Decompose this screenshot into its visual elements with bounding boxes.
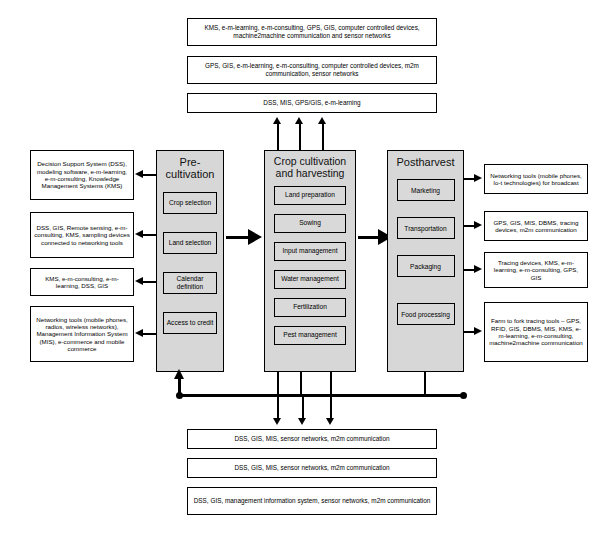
task-access-to-credit: Access to credit <box>163 312 217 334</box>
bottom-banner-1: DSS, GIS, MIS, sensor networks, m2m comm… <box>187 429 437 449</box>
phase-title-crop-cultivation: Crop cultivation and harvesting <box>265 156 355 180</box>
connector-left-4 <box>143 333 157 335</box>
bus-junction-right <box>460 392 467 399</box>
connector-bus-down-2 <box>302 394 304 420</box>
connector-phase2-to-bus <box>300 372 302 394</box>
task-fertilization: Fertilization <box>274 298 346 317</box>
connector-up-1 <box>277 124 279 150</box>
task-land-preparation: Land preparation <box>274 186 346 205</box>
connector-left-3 <box>143 281 157 283</box>
phase-postharvest: Postharvest Marketing Transportation Pac… <box>387 150 464 372</box>
arrow-right-icon-2 <box>474 221 482 229</box>
phase-title-pre-cultivation: Pre-cultivation <box>157 156 223 181</box>
arrow-left-icon-4 <box>135 329 143 337</box>
left-box-4: Networking tools (mobile phones, radios,… <box>30 306 134 362</box>
arrow-left-icon-1 <box>135 170 143 178</box>
bottom-banner-3: DSS, GIS, management information system,… <box>187 487 437 515</box>
task-sowing: Sowing <box>274 214 346 233</box>
connector-left-1 <box>143 174 157 176</box>
feedback-bus <box>178 394 464 397</box>
arrow-down-icon-3 <box>326 418 334 425</box>
top-banner-3: DSS, MIS, GPS/GIS, e-m-learning <box>187 93 437 113</box>
task-pest-management: Pest management <box>274 326 346 345</box>
arrow-right-icon-1 <box>474 174 482 182</box>
connector-left-2 <box>143 234 157 236</box>
task-packaging: Packaging <box>397 255 455 277</box>
arrow-left-icon-3 <box>135 277 143 285</box>
task-land-selection: Land selection <box>163 232 217 254</box>
arrow-down-icon-2 <box>298 418 306 425</box>
top-banner-2: GPS, GIS, e-m-learning, e-m-consulting, … <box>187 56 437 84</box>
connector-phase1-to-phase2 <box>226 236 250 239</box>
arrow-right-icon-3 <box>474 265 482 273</box>
right-box-2: GPS, GIS, MIS, DBMS, tracing devices, m2… <box>484 211 588 241</box>
phase-crop-cultivation: Crop cultivation and harvesting Land pre… <box>264 150 356 372</box>
connector-phase2-to-phase3 <box>358 236 380 239</box>
arrow-up-icon-feedback <box>174 369 184 379</box>
connector-up-3 <box>322 124 324 150</box>
arrow-up-icon-2 <box>295 117 303 124</box>
task-input-management: Input management <box>274 242 346 261</box>
left-box-2: DSS, GIS, Remote sensing, e-m-consulting… <box>30 212 134 258</box>
connector-bus-down-1 <box>277 372 279 420</box>
diagram-canvas: KMS, e-m-learning, e-m-consulting, GPS, … <box>0 0 612 536</box>
task-water-management: Water management <box>274 270 346 289</box>
connector-phase3-to-bus <box>424 372 426 394</box>
right-box-4: Farm to fork tracing tools – GPS, RFID, … <box>484 302 588 362</box>
task-marketing: Marketing <box>397 179 455 201</box>
connector-up-2 <box>299 124 301 150</box>
top-banner-1: KMS, e-m-learning, e-m-consulting, GPS, … <box>187 18 437 46</box>
left-box-1: Decision Support System (DSS), modeling … <box>30 150 134 200</box>
phase-title-postharvest: Postharvest <box>396 156 454 168</box>
right-box-3: Tracing devices, KMS, e-m-learning, e-m-… <box>484 252 588 288</box>
task-calendar-definition: Calendar definition <box>163 272 217 294</box>
arrow-down-icon-1 <box>273 418 281 425</box>
left-box-3: KMS, e-m-consulting, e-m-learning, DSS, … <box>30 268 134 296</box>
arrow-left-icon-2 <box>135 230 143 238</box>
arrow-right-icon-phase1-phase2 <box>248 229 262 245</box>
task-transportation: Transportation <box>397 217 455 239</box>
task-food-processing: Food processing <box>397 303 455 325</box>
bottom-banner-2: DSS, GIS, MIS, sensor networks, m2m comm… <box>187 458 437 478</box>
connector-bus-down-3 <box>330 372 332 420</box>
phase-pre-cultivation: Pre-cultivation Crop selection Land sele… <box>156 150 224 372</box>
right-box-1: Networking tools (mobile phones, Io-t te… <box>484 164 588 194</box>
arrow-up-icon-1 <box>273 117 281 124</box>
arrow-right-icon-4 <box>474 327 482 335</box>
task-crop-selection: Crop selection <box>163 192 217 214</box>
arrow-up-icon-3 <box>318 117 326 124</box>
